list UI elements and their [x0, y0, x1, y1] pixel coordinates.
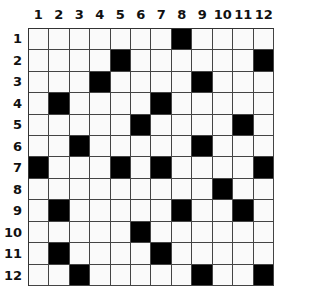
white-cell[interactable]	[233, 243, 253, 264]
white-cell[interactable]	[90, 93, 110, 114]
white-cell[interactable]	[151, 222, 171, 243]
white-cell[interactable]	[151, 29, 171, 50]
white-cell[interactable]	[192, 157, 212, 178]
white-cell[interactable]	[254, 179, 274, 200]
white-cell[interactable]	[29, 222, 49, 243]
white-cell[interactable]	[49, 136, 69, 157]
white-cell[interactable]	[213, 50, 233, 71]
white-cell[interactable]	[90, 179, 110, 200]
white-cell[interactable]	[254, 200, 274, 221]
white-cell[interactable]	[111, 93, 131, 114]
white-cell[interactable]	[49, 29, 69, 50]
white-cell[interactable]	[233, 136, 253, 157]
white-cell[interactable]	[151, 200, 171, 221]
white-cell[interactable]	[70, 222, 90, 243]
white-cell[interactable]	[111, 115, 131, 136]
white-cell[interactable]	[29, 29, 49, 50]
white-cell[interactable]	[172, 265, 192, 286]
white-cell[interactable]	[172, 136, 192, 157]
white-cell[interactable]	[29, 200, 49, 221]
white-cell[interactable]	[192, 200, 212, 221]
white-cell[interactable]	[213, 72, 233, 93]
white-cell[interactable]	[213, 29, 233, 50]
white-cell[interactable]	[172, 179, 192, 200]
white-cell[interactable]	[213, 136, 233, 157]
white-cell[interactable]	[254, 93, 274, 114]
white-cell[interactable]	[49, 50, 69, 71]
white-cell[interactable]	[49, 72, 69, 93]
white-cell[interactable]	[192, 179, 212, 200]
white-cell[interactable]	[172, 72, 192, 93]
white-cell[interactable]	[151, 136, 171, 157]
white-cell[interactable]	[90, 29, 110, 50]
white-cell[interactable]	[151, 72, 171, 93]
white-cell[interactable]	[70, 29, 90, 50]
white-cell[interactable]	[131, 243, 151, 264]
white-cell[interactable]	[254, 72, 274, 93]
white-cell[interactable]	[111, 265, 131, 286]
white-cell[interactable]	[213, 200, 233, 221]
white-cell[interactable]	[111, 200, 131, 221]
white-cell[interactable]	[90, 50, 110, 71]
white-cell[interactable]	[172, 157, 192, 178]
white-cell[interactable]	[70, 179, 90, 200]
white-cell[interactable]	[213, 93, 233, 114]
white-cell[interactable]	[233, 157, 253, 178]
white-cell[interactable]	[131, 179, 151, 200]
white-cell[interactable]	[131, 136, 151, 157]
white-cell[interactable]	[90, 136, 110, 157]
white-cell[interactable]	[70, 115, 90, 136]
white-cell[interactable]	[70, 72, 90, 93]
white-cell[interactable]	[90, 265, 110, 286]
white-cell[interactable]	[70, 200, 90, 221]
white-cell[interactable]	[254, 136, 274, 157]
white-cell[interactable]	[29, 72, 49, 93]
white-cell[interactable]	[131, 72, 151, 93]
white-cell[interactable]	[111, 179, 131, 200]
white-cell[interactable]	[131, 157, 151, 178]
white-cell[interactable]	[111, 222, 131, 243]
white-cell[interactable]	[111, 72, 131, 93]
white-cell[interactable]	[233, 265, 253, 286]
white-cell[interactable]	[70, 50, 90, 71]
white-cell[interactable]	[70, 93, 90, 114]
white-cell[interactable]	[29, 115, 49, 136]
white-cell[interactable]	[49, 222, 69, 243]
white-cell[interactable]	[131, 200, 151, 221]
white-cell[interactable]	[192, 115, 212, 136]
white-cell[interactable]	[233, 72, 253, 93]
white-cell[interactable]	[233, 29, 253, 50]
white-cell[interactable]	[192, 222, 212, 243]
white-cell[interactable]	[131, 265, 151, 286]
white-cell[interactable]	[233, 179, 253, 200]
white-cell[interactable]	[49, 179, 69, 200]
white-cell[interactable]	[254, 115, 274, 136]
white-cell[interactable]	[90, 157, 110, 178]
white-cell[interactable]	[131, 50, 151, 71]
white-cell[interactable]	[213, 222, 233, 243]
white-cell[interactable]	[192, 93, 212, 114]
white-cell[interactable]	[70, 157, 90, 178]
white-cell[interactable]	[254, 243, 274, 264]
white-cell[interactable]	[151, 115, 171, 136]
white-cell[interactable]	[172, 50, 192, 71]
white-cell[interactable]	[131, 29, 151, 50]
white-cell[interactable]	[213, 115, 233, 136]
white-cell[interactable]	[192, 29, 212, 50]
white-cell[interactable]	[131, 93, 151, 114]
white-cell[interactable]	[111, 243, 131, 264]
white-cell[interactable]	[90, 200, 110, 221]
white-cell[interactable]	[233, 222, 253, 243]
white-cell[interactable]	[151, 179, 171, 200]
white-cell[interactable]	[29, 265, 49, 286]
white-cell[interactable]	[49, 115, 69, 136]
white-cell[interactable]	[233, 93, 253, 114]
white-cell[interactable]	[111, 136, 131, 157]
white-cell[interactable]	[29, 93, 49, 114]
white-cell[interactable]	[192, 243, 212, 264]
white-cell[interactable]	[254, 29, 274, 50]
white-cell[interactable]	[151, 50, 171, 71]
white-cell[interactable]	[172, 115, 192, 136]
white-cell[interactable]	[254, 222, 274, 243]
white-cell[interactable]	[90, 243, 110, 264]
